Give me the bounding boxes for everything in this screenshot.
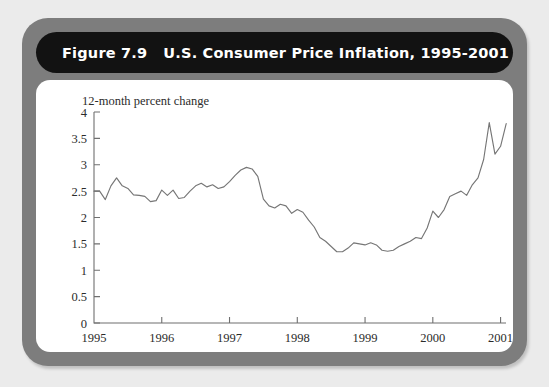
figure-card: Figure 7.9 U.S. Consumer Price Inflation… [22,18,527,366]
y-tick-label: 0.5 [71,290,87,304]
x-tick-label: 2001 [488,331,513,345]
y-tick-label: 1.5 [71,237,87,251]
x-tick-label: 1995 [82,331,107,345]
y-tick-label: 2.5 [71,185,87,199]
x-tick-label: 1999 [353,331,378,345]
x-tick-label: 2000 [420,331,445,345]
x-axis-tick-labels: 1995199619971998199920002001 [82,331,514,345]
figure-label: Figure 7.9 [62,45,147,61]
y-axis-title: 12-month percent change [82,94,209,108]
axis-tick-marks [94,112,501,323]
y-axis-tick-labels: 00.511.522.533.54 [71,106,87,331]
y-tick-label: 0 [81,317,87,331]
inflation-line-series [94,123,506,252]
chart-axes [94,112,506,323]
x-tick-label: 1996 [149,331,174,345]
figure-title-bar: Figure 7.9 U.S. Consumer Price Inflation… [36,32,513,73]
y-tick-label: 2 [81,211,87,225]
y-tick-label: 3.5 [71,132,87,146]
y-tick-label: 3 [81,158,87,172]
chart-panel: 00.511.522.533.54 1995199619971998199920… [36,80,513,352]
x-tick-label: 1997 [217,331,242,345]
x-tick-label: 1998 [285,331,310,345]
y-tick-label: 1 [81,264,87,278]
figure-title: U.S. Consumer Price Inflation, 1995-2001 [163,45,509,61]
line-chart: 00.511.522.533.54 1995199619971998199920… [36,80,513,352]
